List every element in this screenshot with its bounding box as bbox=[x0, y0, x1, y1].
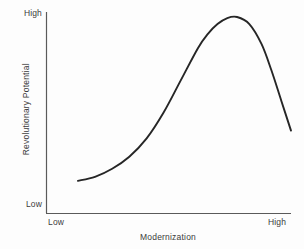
data-curve bbox=[78, 17, 291, 181]
x-axis-tick-high: High bbox=[268, 218, 286, 227]
y-axis-tick-high: High bbox=[17, 9, 42, 18]
x-axis-tick-low: Low bbox=[48, 218, 64, 227]
x-axis-title: Modernization bbox=[46, 233, 290, 242]
plot-area bbox=[0, 0, 304, 249]
y-axis-title: Revolutionary Potential bbox=[22, 29, 31, 189]
chart-figure: High Low Low High Revolutionary Potentia… bbox=[0, 0, 304, 249]
y-axis-tick-low: Low bbox=[17, 200, 42, 209]
